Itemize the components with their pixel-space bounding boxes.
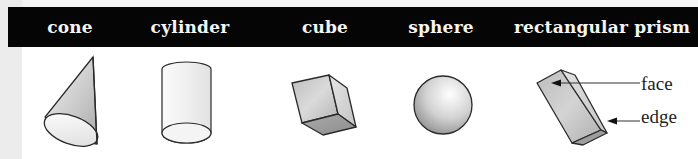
edge-pointer bbox=[607, 118, 640, 125]
sphere-shape bbox=[414, 76, 472, 134]
cylinder-shape bbox=[162, 62, 211, 143]
shapes-illustration bbox=[0, 0, 698, 159]
rectangular-prism-shape bbox=[537, 70, 607, 145]
cone-shape bbox=[40, 57, 102, 153]
cube-shape bbox=[292, 75, 356, 135]
edge-label: edge bbox=[641, 107, 677, 126]
face-label: face bbox=[641, 74, 673, 93]
